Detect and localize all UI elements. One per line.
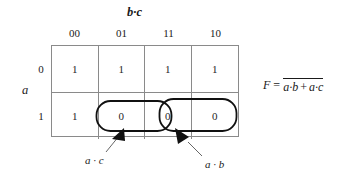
equation-negated-expression: a·b+a·c <box>283 78 323 95</box>
kmap-cell-r0c2: 1 <box>145 46 192 92</box>
kmap-cell-r0c0: 1 <box>52 46 99 92</box>
row-header-0: 0 <box>34 64 48 75</box>
kmap-cell-r1c2: 0 <box>145 93 192 139</box>
grouping-label-ac: a · c <box>85 155 104 166</box>
kmap-grid: 1 1 1 1 1 0 0 0 <box>51 45 239 137</box>
kmap-cell-r1c3: 0 <box>192 93 238 139</box>
grouping-label-ab: a · b <box>205 159 224 170</box>
kmap-cell-r1c1: 0 <box>99 93 146 139</box>
column-header-10: 10 <box>192 28 239 39</box>
arrow-line-ab <box>188 142 202 156</box>
equation-term-2: a·c <box>309 80 323 94</box>
kmap-row-0: 1 1 1 1 <box>52 46 238 93</box>
column-header-00: 00 <box>51 28 98 39</box>
kmap-cell-r0c1: 1 <box>99 46 146 92</box>
column-header-11: 11 <box>145 28 192 39</box>
equation-term-1: a·b <box>283 80 298 94</box>
kmap-cell-r0c3: 1 <box>192 46 238 92</box>
equation-lhs: F <box>263 78 270 93</box>
equation-operator: + <box>298 80 309 94</box>
karnaugh-map-figure: b·c 00 01 11 10 a 0 1 1 1 1 1 1 0 0 0 <box>0 0 352 179</box>
equation-equals-sign: = <box>273 78 280 93</box>
column-header-01: 01 <box>98 28 145 39</box>
boolean-equation: F = a·b+a·c <box>263 78 323 95</box>
row-header-1: 1 <box>34 111 48 122</box>
kmap-row-1: 1 0 0 0 <box>52 93 238 139</box>
column-group-label: b·c <box>127 6 142 19</box>
kmap-cell-r1c0: 1 <box>52 93 99 139</box>
row-group-label: a <box>22 84 28 97</box>
